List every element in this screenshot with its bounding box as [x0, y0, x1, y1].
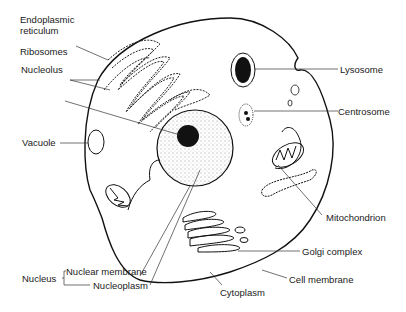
- label-endoplasmic-reticulum-line1: Endoplasmic: [20, 14, 74, 25]
- label-mitochondrion: Mitochondrion: [326, 212, 386, 223]
- golgi-complex: [183, 211, 248, 252]
- label-endoplasmic-reticulum-line2: reticulum: [20, 25, 59, 36]
- label-nucleolus: Nucleolus: [21, 64, 63, 75]
- label-ribosomes: Ribosomes: [20, 46, 68, 57]
- label-golgi-complex: Golgi complex: [302, 246, 362, 257]
- label-cell-membrane: Cell membrane: [289, 274, 353, 285]
- mitochondrion-right: [262, 127, 317, 196]
- label-centrosome: Centrosome: [338, 106, 390, 117]
- centrosome: [239, 104, 253, 126]
- nucleus: [157, 110, 233, 186]
- label-lysosome: Lysosome: [340, 64, 383, 75]
- label-cytoplasm: Cytoplasm: [220, 287, 265, 298]
- nucleolus: [177, 125, 199, 147]
- label-vacuole: Vacuole: [22, 137, 56, 148]
- label-nucleus: Nucleus: [22, 273, 56, 284]
- vacuole: [88, 130, 104, 154]
- label-nuclear-membrane: Nuclear membrane: [66, 266, 147, 277]
- label-nucleoplasm: Nucleoplasm: [93, 280, 148, 291]
- mitochondrion-left: [101, 160, 160, 212]
